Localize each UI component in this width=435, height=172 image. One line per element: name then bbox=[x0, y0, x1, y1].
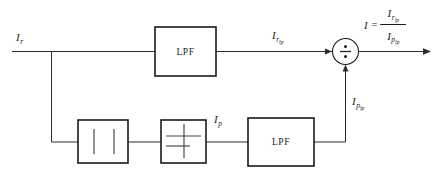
signal-label-input-sub: r bbox=[20, 37, 23, 46]
absolute-value-block bbox=[78, 120, 128, 163]
signal-label-peak: Ip bbox=[214, 110, 222, 127]
equation-operator: = bbox=[372, 19, 378, 30]
signal-label-input: Ir bbox=[16, 28, 23, 45]
signal-label-filtered-reference: Irlp bbox=[272, 26, 283, 45]
low-pass-filter-top-label: LPF bbox=[176, 47, 194, 57]
signal-label-filtered-peak-subsub: lp bbox=[360, 104, 364, 110]
division-icon-bottom-dot bbox=[344, 55, 347, 58]
equation-fraction-bar bbox=[380, 24, 406, 25]
equation-denominator: Iplp bbox=[385, 27, 401, 46]
signal-label-filtered-reference-subsub: lp bbox=[279, 38, 283, 44]
signal-label-peak-sub: p bbox=[218, 119, 222, 128]
signal-label-filtered-reference-sub: rlp bbox=[276, 35, 283, 44]
arrowhead-into-divider-bottom bbox=[343, 65, 349, 72]
equation-lhs: I bbox=[364, 19, 368, 31]
equation-fraction: Irlp Iplp bbox=[380, 4, 406, 45]
wire-branch-to-lower-path bbox=[52, 52, 79, 143]
signal-label-filtered-peak-sub: plp bbox=[356, 101, 364, 110]
low-pass-filter-bottom-label: LPF bbox=[272, 137, 290, 147]
division-icon-top-dot bbox=[344, 45, 347, 48]
signal-label-filtered-peak: Iplp bbox=[352, 92, 364, 111]
wire-lpf-bottom-to-divider bbox=[314, 66, 346, 142]
division-icon-bar bbox=[340, 51, 351, 52]
arrowhead-into-divider-left bbox=[325, 49, 332, 55]
arrowhead-output bbox=[423, 48, 431, 54]
output-equation: I = Irlp Iplp bbox=[364, 4, 406, 45]
block-diagram-figure: LPF LPF Ir bbox=[0, 0, 435, 172]
equation-numerator: Irlp bbox=[386, 4, 401, 23]
